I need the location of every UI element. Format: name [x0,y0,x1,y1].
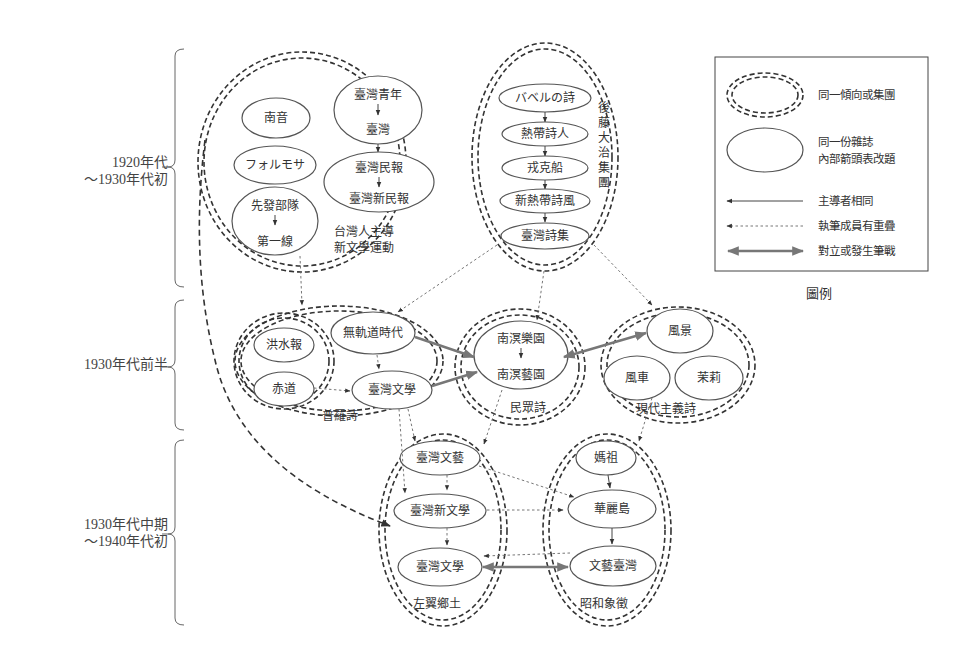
svg-text:臺灣文學: 臺灣文學 [416,559,464,574]
node-hongshuibao: 洪水報 [254,328,314,362]
node-formosa: フォルモサ [234,146,316,184]
connector-wuguidao-taiwan-wenxue [377,355,379,369]
svg-text:後: 後 [598,101,610,115]
svg-text:台灣人主導: 台灣人主導 [334,224,394,239]
svg-text:對立或發生筆戰: 對立或發生筆戰 [818,244,896,258]
svg-text:內部箭頭表改題: 內部箭頭表改題 [818,152,896,166]
node-chidao: 赤道 [254,372,314,406]
svg-text:南音: 南音 [264,110,288,125]
svg-text:臺灣詩集: 臺灣詩集 [521,228,569,243]
relationship-diagram: 南音 フォルモサ 先發部隊 第一線 臺灣青年 臺灣 臺灣民報 臺灣新民報 台灣人… [0,0,980,667]
svg-text:集: 集 [598,160,610,175]
group-label-proletarian: 普羅詩 [322,409,358,423]
svg-text:無軌道時代: 無軌道時代 [343,325,403,340]
svg-text:大: 大 [598,131,610,145]
group-label-goto-daiji: 後 藤 大 治 集 團 [598,101,610,190]
node-babel: バベルの詩 [499,84,591,112]
svg-text:同一傾向或集團: 同一傾向或集團 [818,88,895,102]
svg-text:新文學運動: 新文學運動 [334,240,394,255]
node-taiwan-wenxue-2: 臺灣文學 [398,548,482,586]
legend-title: 圖例 [806,286,832,301]
brace-1920s [168,49,184,287]
group-label-showa-symbolism: 昭和象徵 [580,596,628,611]
node-nanming: 南溟樂園 南溟藝園 [474,321,568,389]
svg-text:フォルモサ: フォルモサ [245,158,305,172]
legend-item-magazine: 同一份雜誌 內部箭頭表改題 [727,128,896,172]
legend-item-same-leader: 主導者相同 [727,194,873,208]
node-xinredai-shifeng: 新熱帶詩風 [500,189,590,213]
svg-text:洪水報: 洪水報 [266,338,302,352]
svg-text:新熱帶詩風: 新熱帶詩風 [515,193,575,208]
node-xianfa-diyixian: 先發部隊 第一線 [232,187,318,255]
svg-text:臺灣文學: 臺灣文學 [368,382,416,397]
svg-text:風景: 風景 [668,324,692,338]
node-rongkechuan: 戎克船 [502,156,588,180]
connector-chidao-taiwan-wenxue [314,388,350,391]
node-taiwan-shiji: 臺灣詩集 [501,223,589,249]
svg-text:藤: 藤 [598,116,610,130]
legend-item-group: 同一傾向或集團 [727,73,895,117]
svg-text:臺灣新文學: 臺灣新文學 [410,503,470,518]
brace-early-1930s [168,300,184,430]
period-braces [162,49,184,625]
svg-text:茉莉: 茉莉 [697,371,721,385]
group-label-taiwanese-new-literature: 台灣人主導 新文學運動 [334,224,394,255]
svg-text:風車: 風車 [625,371,649,385]
svg-text:南溟藝園: 南溟藝園 [497,367,545,382]
legend: 同一傾向或集團 同一份雜誌 內部箭頭表改題 主導者相同 執筆成員有重疊 對立或發… [715,57,928,301]
svg-text:臺灣民報: 臺灣民報 [355,160,403,175]
group-label-modernist: 現代主義詩 [636,401,696,416]
svg-text:バベルの詩: バベルの詩 [515,91,575,105]
node-wuguidao: 無軌道時代 [331,312,415,354]
svg-text:南溟樂園: 南溟樂園 [497,331,545,346]
node-fengche: 風車 [604,356,670,400]
node-taiwan-wenxue-1: 臺灣文學 [352,371,432,409]
svg-text:治: 治 [598,146,610,160]
svg-text:文藝臺灣: 文藝臺灣 [589,558,637,573]
svg-text:媽祖: 媽祖 [594,450,618,465]
svg-text:團: 團 [598,176,610,190]
group-label-folk-poetry: 民眾詩 [510,401,546,415]
svg-text:臺灣青年: 臺灣青年 [354,87,402,102]
svg-text:赤道: 赤道 [272,382,296,396]
svg-text:執筆成員有重疊: 執筆成員有重疊 [818,219,895,233]
node-taiwan-wenyi: 臺灣文藝 [400,441,480,475]
node-hualidao: 華麗島 [568,490,656,528]
svg-text:華麗島: 華麗島 [594,501,630,516]
svg-text:臺灣文藝: 臺灣文藝 [416,450,464,465]
node-taiwan-qingnian: 臺灣青年 臺灣 [334,76,422,144]
group-label-left-nativist: 左翼鄉土 [413,596,461,611]
node-taiwan-minbao: 臺灣民報 臺灣新民報 [324,152,434,212]
svg-text:同一份雜誌: 同一份雜誌 [818,135,874,149]
svg-text:戎克船: 戎克船 [527,161,563,175]
svg-text:熱帶詩人: 熱帶詩人 [521,127,569,141]
svg-text:臺灣新民報: 臺灣新民報 [349,191,409,206]
node-wenyi-taiwan: 文藝臺灣 [570,546,656,586]
legend-item-member-overlap: 執筆成員有重疊 [727,219,895,233]
node-moli: 茉莉 [675,356,743,400]
node-fengjing: 風景 [647,309,713,353]
legend-item-conflict: 對立或發生筆戰 [728,244,896,258]
svg-text:臺灣: 臺灣 [366,122,390,137]
brace-mid-1930s [168,440,184,625]
svg-text:第一線: 第一線 [257,234,293,249]
node-taiwan-xinwenxue: 臺灣新文學 [394,494,486,528]
node-redai-shiren: 熱帶詩人 [502,122,588,146]
svg-text:主導者相同: 主導者相同 [818,194,873,208]
node-mazu: 媽祖 [576,441,636,475]
svg-text:先發部隊: 先發部隊 [251,198,299,213]
node-nanyin: 南音 [242,98,310,138]
